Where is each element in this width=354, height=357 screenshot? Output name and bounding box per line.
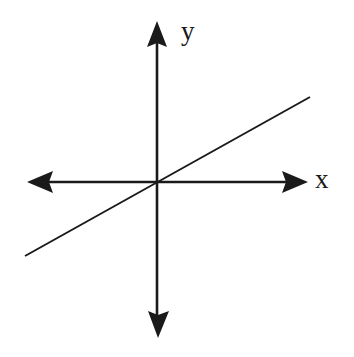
line-through-origin	[25, 97, 310, 256]
axes-canvas	[0, 0, 354, 357]
coordinate-axes-figure: y x	[0, 0, 354, 357]
x-axis-label: x	[315, 166, 329, 193]
y-axis-down-arrowhead-icon	[148, 311, 169, 338]
y-axis-label: y	[181, 18, 195, 45]
